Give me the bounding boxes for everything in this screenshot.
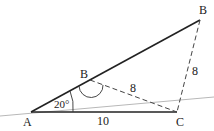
label-b-outer-c-length: 8 xyxy=(192,65,198,77)
triangle-diagram xyxy=(0,0,214,131)
angle-a-arc xyxy=(70,91,73,112)
label-ac-length: 10 xyxy=(97,115,109,127)
label-b-inner: B xyxy=(80,68,88,80)
label-angle-a: 20° xyxy=(54,99,69,110)
label-b-inner-c-length: 8 xyxy=(130,82,136,94)
label-b-outer: B xyxy=(199,4,207,16)
angle-b-arc xyxy=(79,85,103,98)
label-a: A xyxy=(23,116,32,128)
label-c: C xyxy=(176,116,184,128)
